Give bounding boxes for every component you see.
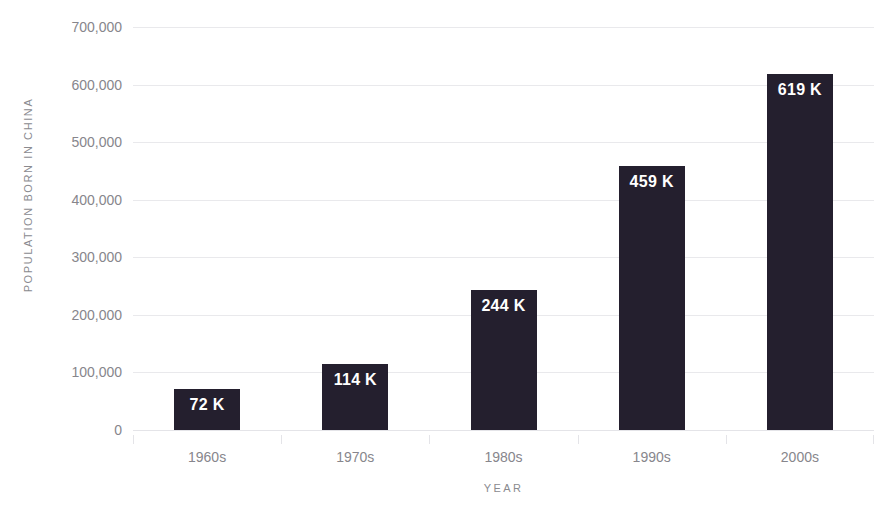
x-tick-mark — [726, 435, 727, 444]
x-tick-mark — [281, 435, 282, 444]
x-tick-mark — [133, 435, 134, 444]
x-tick-label: 1990s — [633, 449, 671, 465]
x-axis-tick-labels: 1960s1970s1980s1990s2000s — [133, 449, 874, 473]
plot-area: 72 K114 K244 K459 K619 K — [133, 10, 874, 435]
x-tick-label: 1970s — [336, 449, 374, 465]
bar[interactable]: 114 K — [322, 364, 388, 430]
bar[interactable]: 244 K — [471, 290, 537, 430]
bar-value-label: 459 K — [619, 173, 685, 191]
y-tick-label: 500,000 — [0, 134, 122, 150]
y-tick-label: 400,000 — [0, 192, 122, 208]
x-tick-label: 1960s — [188, 449, 226, 465]
x-tick-label: 1980s — [484, 449, 522, 465]
y-tick-label: 300,000 — [0, 249, 122, 265]
bar-value-label: 244 K — [471, 297, 537, 315]
x-tick-mark — [578, 435, 579, 444]
x-tick-mark — [429, 435, 430, 444]
category-tick-marks — [133, 435, 874, 445]
x-tick-label: 2000s — [781, 449, 819, 465]
x-axis-title: YEAR — [133, 482, 874, 494]
bar[interactable]: 459 K — [619, 166, 685, 430]
y-axis-tick-labels: 700,000600,000500,000400,000300,000200,0… — [0, 0, 122, 514]
bar-chart: POPULATION BORN IN CHINA 700,000600,0005… — [0, 0, 874, 514]
bar[interactable]: 72 K — [174, 389, 240, 430]
bar-value-label: 619 K — [767, 81, 833, 99]
y-tick-label: 100,000 — [0, 364, 122, 380]
bar-value-label: 114 K — [322, 371, 388, 389]
y-tick-label: 700,000 — [0, 19, 122, 35]
y-tick-label: 200,000 — [0, 307, 122, 323]
bars-layer: 72 K114 K244 K459 K619 K — [133, 10, 874, 435]
y-tick-label: 0 — [0, 422, 122, 438]
y-tick-label: 600,000 — [0, 77, 122, 93]
bar[interactable]: 619 K — [767, 74, 833, 430]
bar-value-label: 72 K — [174, 396, 240, 414]
